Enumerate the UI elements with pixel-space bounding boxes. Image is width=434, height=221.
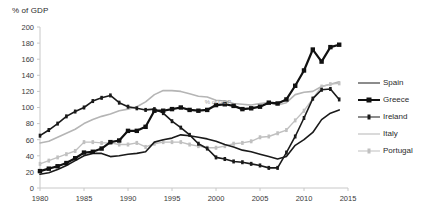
series-marker xyxy=(56,155,59,159)
series-marker xyxy=(241,141,244,145)
series-marker xyxy=(231,104,235,108)
series-marker xyxy=(171,119,174,123)
x-axis-tick-label: 1985 xyxy=(76,194,93,203)
series-marker xyxy=(312,97,315,101)
series-marker xyxy=(117,138,121,142)
series-marker xyxy=(188,133,191,137)
series-marker xyxy=(268,166,271,170)
series-marker xyxy=(126,129,130,133)
series-marker xyxy=(329,87,332,91)
series-marker xyxy=(171,140,174,144)
series-ireland xyxy=(39,87,341,170)
series-marker xyxy=(118,143,121,147)
x-axis-tick-label: 1980 xyxy=(32,194,49,203)
chart-figure: % of GDP 0204060801001201401601802001980… xyxy=(0,0,434,221)
series-marker xyxy=(285,128,288,132)
series-marker xyxy=(328,45,332,49)
series-marker xyxy=(232,159,235,163)
series-marker xyxy=(161,109,165,113)
legend-item-spain[interactable]: Spain xyxy=(358,74,434,91)
series-marker xyxy=(109,93,112,97)
series-marker xyxy=(293,84,297,88)
series-marker xyxy=(241,160,244,164)
series-marker xyxy=(82,150,86,154)
series-marker xyxy=(64,161,68,165)
x-axis-tick-label: 2005 xyxy=(252,194,269,203)
series-marker xyxy=(320,88,323,92)
series-marker xyxy=(48,128,51,132)
series-marker xyxy=(73,156,77,160)
series-marker xyxy=(275,101,279,105)
y-axis-tick-label: 60 xyxy=(26,136,34,145)
y-axis-tick-label: 180 xyxy=(21,39,34,48)
y-axis-tick-label: 0 xyxy=(30,184,34,193)
legend-item-label: Spain xyxy=(383,79,403,87)
series-marker xyxy=(100,96,103,100)
series-marker xyxy=(232,142,235,146)
legend-swatch-icon xyxy=(358,145,380,156)
series-marker xyxy=(258,104,262,108)
series-marker xyxy=(224,157,227,161)
series-marker xyxy=(83,140,86,144)
y-axis-tick-label: 80 xyxy=(26,119,34,128)
series-marker xyxy=(91,150,95,154)
series-marker xyxy=(55,164,59,168)
legend-item-greece[interactable]: Greece xyxy=(358,91,434,108)
series-marker xyxy=(197,142,200,146)
series-marker xyxy=(250,162,253,166)
series-marker xyxy=(65,114,68,118)
series-marker xyxy=(268,134,271,138)
series-marker xyxy=(196,109,200,113)
series-marker xyxy=(249,106,253,110)
series-marker xyxy=(276,166,279,170)
legend-swatch-icon xyxy=(358,128,380,139)
series-marker xyxy=(267,100,271,104)
series-marker xyxy=(187,108,191,112)
legend-item-label: Greece xyxy=(383,96,409,104)
series-marker xyxy=(259,135,262,139)
series-marker xyxy=(56,122,59,126)
series-marker xyxy=(215,146,218,150)
series-marker xyxy=(329,82,332,86)
legend-swatch-icon xyxy=(358,77,380,88)
series-marker xyxy=(118,101,121,105)
series-marker xyxy=(311,47,315,51)
x-axis-tick-label: 1990 xyxy=(120,194,137,203)
series-marker xyxy=(127,105,130,109)
series-marker xyxy=(303,116,306,120)
series-marker xyxy=(127,143,130,147)
legend-item-ireland[interactable]: Ireland xyxy=(358,108,434,125)
series-marker xyxy=(170,107,174,111)
y-axis-tick-label: 40 xyxy=(26,152,34,161)
legend-swatch-icon xyxy=(358,94,380,105)
series-marker xyxy=(206,147,209,151)
x-axis-tick-label: 1995 xyxy=(164,194,181,203)
series-marker xyxy=(188,143,191,147)
legend-item-label: Italy xyxy=(383,130,398,138)
series-marker xyxy=(338,81,341,85)
series-marker xyxy=(38,169,42,173)
series-marker xyxy=(39,134,42,138)
series-marker xyxy=(215,155,218,159)
series-marker xyxy=(99,146,103,150)
series-marker xyxy=(180,126,183,130)
series-marker xyxy=(136,141,139,145)
series-marker xyxy=(48,159,51,163)
series-marker xyxy=(338,97,341,101)
legend-item-label: Portugal xyxy=(383,147,413,155)
series-marker xyxy=(74,149,77,153)
series-marker xyxy=(144,145,147,149)
series-marker xyxy=(319,59,323,63)
series-marker xyxy=(240,107,244,111)
series-marker xyxy=(179,105,183,109)
legend-item-italy[interactable]: Italy xyxy=(358,125,434,142)
series-marker xyxy=(135,129,139,133)
y-axis-tick-label: 160 xyxy=(21,55,34,64)
series-marker xyxy=(284,97,288,101)
chart-watermark-label: % of GDP xyxy=(205,99,232,105)
series-marker xyxy=(65,152,68,156)
legend-item-portugal[interactable]: Portugal xyxy=(358,142,434,159)
series-marker xyxy=(39,162,42,166)
series-marker xyxy=(276,131,279,135)
series-marker xyxy=(205,108,209,112)
